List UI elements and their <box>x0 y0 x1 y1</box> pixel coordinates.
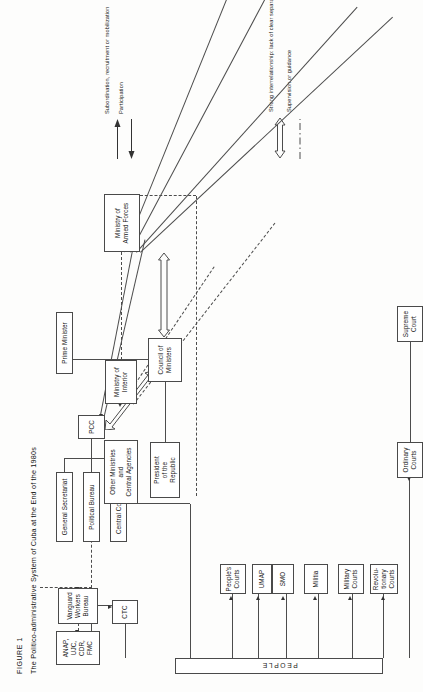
arrow-into-umap <box>256 596 260 600</box>
node-revolutionary-courts: Revolu- tionary Courts <box>370 564 398 594</box>
node-ordinary-courts: Ordinary Courts <box>397 442 423 478</box>
node-president-republic: President of the Republic <box>150 442 180 498</box>
node-supreme-court: Supreme Court <box>397 306 423 342</box>
node-mass-organizations: ANAP, UJC, CDR, FMC <box>56 631 100 665</box>
node-general-secretariat: General Secretariat <box>56 472 73 542</box>
node-militia: Militia <box>304 564 328 594</box>
arrow-into-militia <box>313 596 317 600</box>
maf-to-revolutionary-courts-line <box>140 17 393 253</box>
legend-participation-label: Participation <box>118 82 124 114</box>
node-political-bureau: Political Bureau <box>83 472 100 542</box>
node-pcc: PCC <box>78 415 105 439</box>
arrow-into-military-courts <box>348 596 352 600</box>
node-ministry-of-armed-forces: Ministry of Armed Forces <box>104 194 140 252</box>
legend-strong-interrelationship-label: Strong interrelationship: lack of clear … <box>268 0 274 112</box>
strong-interrelationship-riser <box>140 195 196 196</box>
maf-to-umap-line <box>124 0 256 252</box>
president-to-council-line <box>165 382 166 442</box>
node-military-courts: Military Courts <box>338 564 364 594</box>
interior-maf-link <box>121 252 122 360</box>
people-link-revolutionary-courts <box>383 594 384 658</box>
people-link-ctc-2 <box>125 624 126 658</box>
node-people: PEOPLE <box>175 658 383 674</box>
arrow-into-peoples-courts <box>229 596 233 600</box>
legend-strong-interrelationship-symbol <box>272 117 290 159</box>
figure-caption: The Politico-administrative System of Cu… <box>29 447 38 674</box>
node-peoples-courts: People's Courts <box>220 564 246 594</box>
supreme-to-ordinary-line <box>410 342 411 442</box>
strong-interrelationship-line <box>196 196 197 496</box>
people-link-smo <box>286 594 287 658</box>
legend-subordination-label: Subordination, recruitment or mobilizati… <box>104 7 110 114</box>
people-link-military-courts <box>352 594 353 658</box>
arrow-into-revolutionary-courts <box>381 596 385 600</box>
people-link-other-ministries <box>190 504 191 658</box>
people-link-ordinary-courts <box>409 478 410 658</box>
people-link-umap <box>258 594 259 658</box>
council-maf-hollow-arrow <box>156 252 168 338</box>
node-council-of-ministers: Council of Ministers <box>148 338 182 382</box>
node-smo: SMO <box>272 564 294 594</box>
node-other-ministries: Other Ministries and Central Agencies <box>104 440 138 504</box>
node-ctc: CTC <box>112 600 138 624</box>
people-link-militia <box>318 594 319 658</box>
arrow-into-smo <box>281 596 285 600</box>
figure-label: FIGURE 1 <box>16 637 23 674</box>
party-bracket-arm-1 <box>64 459 65 472</box>
node-ministry-of-interior: Ministry of Interior <box>105 360 137 404</box>
node-prime-minister: Prime Minister <box>56 312 73 374</box>
node-umap: UMAP <box>252 564 272 594</box>
other-ministries-down-line <box>138 503 190 504</box>
maf-to-military-courts-line <box>136 7 358 253</box>
legend-supervision-symbol <box>290 117 308 159</box>
legend-participation-arrow <box>122 119 140 159</box>
node-vanguard-workers-bureau: Vanguard Workers Bureau <box>58 588 98 624</box>
people-link-peoples-courts <box>232 594 233 658</box>
